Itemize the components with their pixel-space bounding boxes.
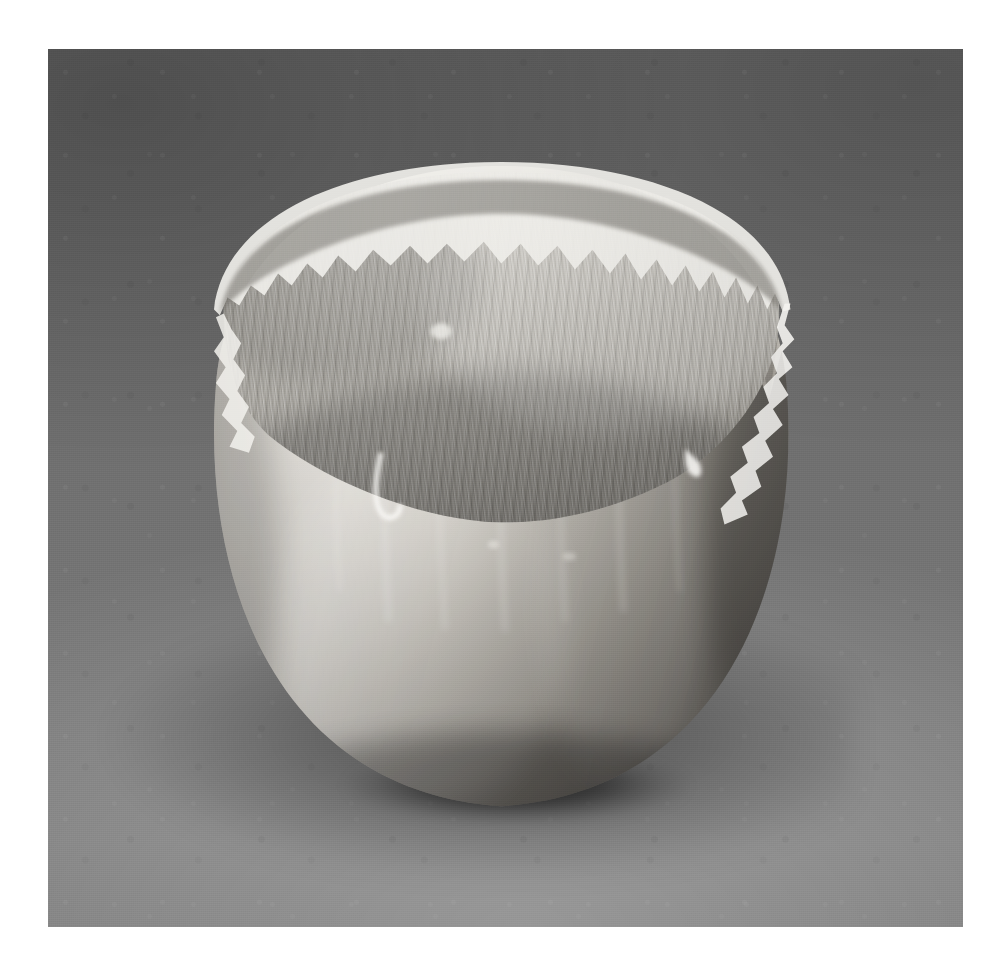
page-root xyxy=(0,0,993,961)
photograph-plate xyxy=(48,49,963,927)
silver-bowl xyxy=(181,154,822,821)
bowl-global-tone xyxy=(181,154,822,821)
bowl-illustration xyxy=(181,154,822,821)
